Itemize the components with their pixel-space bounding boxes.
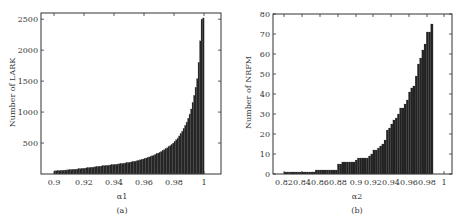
bar: [424, 44, 426, 174]
bar: [344, 162, 346, 174]
bar: [375, 150, 377, 174]
caption-a: (a): [110, 206, 134, 215]
bar: [362, 158, 364, 174]
y-tick-label: 50: [260, 70, 270, 79]
x-tick-label: 0.96: [400, 178, 418, 187]
x-tick-label: 0.94: [382, 178, 400, 187]
bar: [428, 32, 430, 174]
bars: [54, 18, 204, 174]
bar: [331, 170, 333, 174]
bar: [328, 170, 330, 174]
bar: [315, 170, 317, 174]
xlabel-a: α1: [112, 192, 132, 201]
x-tick-label: 0.98: [418, 178, 436, 187]
figure: 0.90.920.940.960.98150010001500200025000…: [0, 0, 460, 223]
bar: [391, 124, 393, 174]
bar: [384, 140, 386, 174]
x-tick-label: 0.9: [350, 178, 363, 187]
bar: [377, 148, 379, 174]
x-tick-label: 1: [441, 178, 446, 187]
bar: [422, 50, 424, 174]
bar: [360, 158, 362, 174]
chart-a: 0.90.920.940.960.9815001000150020002500: [18, 13, 221, 187]
x-tick-label: 0.92: [75, 178, 93, 187]
x-tick-label: 0.92: [364, 178, 382, 187]
bar: [324, 170, 326, 174]
bar: [346, 162, 348, 174]
bar: [366, 158, 368, 174]
bar: [402, 108, 404, 174]
y-tick-label: 2500: [18, 15, 38, 24]
ylabel-a: Number of LARK: [8, 53, 17, 133]
y-tick-label: 2000: [18, 46, 38, 55]
caption-b: (b): [345, 206, 369, 215]
x-tick-label: 1: [201, 178, 206, 187]
bars: [284, 24, 433, 174]
x-tick-label: 0.84: [293, 178, 311, 187]
bar: [400, 108, 402, 174]
y-tick-label: 1500: [18, 77, 38, 86]
bar: [417, 64, 419, 174]
y-tick-label: 70: [260, 30, 270, 39]
x-tick-label: 0.94: [105, 178, 123, 187]
bar: [431, 24, 433, 174]
x-tick-label: 0.98: [165, 178, 183, 187]
bar: [404, 104, 406, 174]
bar: [348, 162, 350, 174]
bar: [364, 158, 366, 174]
bar: [420, 58, 422, 174]
bar: [317, 170, 319, 174]
bar: [395, 118, 397, 174]
y-tick-label: 1000: [18, 108, 38, 117]
bar: [335, 170, 337, 174]
bar: [397, 114, 399, 174]
bar: [203, 18, 205, 174]
bar: [388, 128, 390, 174]
bar: [380, 146, 382, 174]
bar: [408, 92, 410, 174]
y-tick-label: 60: [260, 50, 270, 59]
bar: [357, 158, 359, 174]
x-tick-label: 0.86: [311, 178, 329, 187]
x-tick-label: 0.96: [135, 178, 153, 187]
bar: [340, 164, 342, 174]
x-tick-label: 0.88: [329, 178, 347, 187]
bar: [373, 150, 375, 174]
bar: [333, 170, 335, 174]
y-tick-label: 80: [260, 10, 270, 19]
y-tick-label: 40: [260, 90, 270, 99]
y-tick-label: 0: [265, 170, 270, 179]
ylabel-b: Number of NRFM: [244, 51, 253, 135]
bar: [342, 162, 344, 174]
bar: [426, 32, 428, 174]
y-tick-label: 500: [23, 139, 38, 148]
x-tick-label: 0.82: [275, 178, 293, 187]
y-tick-label: 30: [260, 110, 270, 119]
bar: [368, 156, 370, 174]
bar: [393, 120, 395, 174]
bar: [382, 144, 384, 174]
chart-b: 0.820.840.860.880.90.920.940.960.9810102…: [260, 10, 452, 187]
y-tick-label: 20: [260, 130, 270, 139]
y-tick-label: 10: [260, 150, 270, 159]
x-tick-label: 0.9: [48, 178, 61, 187]
bar: [415, 76, 417, 174]
bar: [322, 170, 324, 174]
bar: [351, 162, 353, 174]
bar: [386, 130, 388, 174]
xlabel-b: α2: [347, 192, 367, 201]
bar: [353, 162, 355, 174]
bar: [406, 100, 408, 174]
bar: [413, 86, 415, 174]
bar: [411, 88, 413, 174]
bar: [326, 170, 328, 174]
